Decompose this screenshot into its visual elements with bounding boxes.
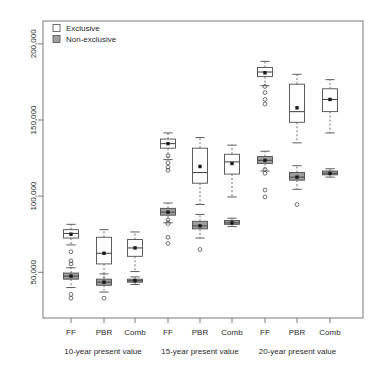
- mean-marker: [328, 172, 331, 175]
- x-tick-label: Comb: [221, 328, 243, 337]
- boxplot[interactable]: [64, 224, 79, 265]
- x-tick-label: PBR: [192, 328, 209, 337]
- mean-marker: [69, 233, 72, 236]
- boxplot-chart: 50,000100,000150,000200,000 FFPBRCombFFP…: [0, 0, 379, 376]
- outlier-point: [263, 98, 267, 102]
- chart-canvas: 50,000100,000150,000200,000 FFPBRCombFFP…: [0, 0, 379, 376]
- mean-marker: [328, 98, 331, 101]
- y-tick-label: 200,000: [29, 29, 38, 58]
- panel-label: 10-year present value: [64, 347, 142, 356]
- legend-swatch: [53, 36, 60, 43]
- box-iqr: [290, 84, 305, 122]
- x-tick-label: Comb: [124, 328, 146, 337]
- boxplot[interactable]: [161, 133, 176, 172]
- boxplot[interactable]: [161, 203, 176, 245]
- panel-label: 20-year present value: [259, 347, 337, 356]
- legend-label: Non-exclusive: [66, 35, 117, 44]
- boxplot-series-layer: [64, 61, 338, 300]
- outlier-point: [69, 296, 73, 300]
- boxplot[interactable]: [290, 166, 305, 207]
- x-tick-label: FF: [163, 328, 173, 337]
- outlier-point: [263, 188, 267, 192]
- boxplot[interactable]: [193, 214, 208, 251]
- y-tick-label: 150,000: [29, 105, 38, 134]
- mean-marker: [133, 279, 136, 282]
- mean-marker: [102, 252, 105, 255]
- panel-label: 15-year present value: [161, 347, 239, 356]
- boxplot[interactable]: [97, 274, 112, 300]
- outlier-point: [263, 195, 267, 199]
- boxplot[interactable]: [193, 138, 208, 205]
- boxplot[interactable]: [128, 277, 143, 285]
- mean-marker: [230, 221, 233, 224]
- mean-marker: [198, 224, 201, 227]
- outlier-point: [69, 250, 73, 254]
- outlier-point: [166, 235, 170, 239]
- outlier-point: [295, 203, 299, 207]
- boxplot[interactable]: [258, 151, 273, 199]
- mean-marker: [133, 246, 136, 249]
- outlier-point: [263, 91, 267, 95]
- outlier-point: [102, 296, 106, 300]
- legend-swatch: [53, 25, 60, 32]
- boxplot[interactable]: [64, 268, 79, 300]
- x-tick-label: FF: [260, 328, 270, 337]
- y-axis: 50,000100,000150,000200,000: [29, 29, 43, 285]
- outlier-point: [263, 171, 267, 175]
- mean-marker: [230, 162, 233, 165]
- mean-marker: [102, 281, 105, 284]
- mean-marker: [69, 274, 72, 277]
- outlier-point: [166, 161, 170, 165]
- mean-marker: [166, 210, 169, 213]
- boxplot[interactable]: [225, 145, 240, 197]
- boxplot[interactable]: [290, 74, 305, 143]
- box-iqr: [97, 237, 112, 264]
- y-tick-label: 50,000: [29, 260, 38, 285]
- boxplot[interactable]: [323, 169, 338, 177]
- boxplot[interactable]: [225, 218, 240, 226]
- x-tick-label: FF: [66, 328, 76, 337]
- boxplot[interactable]: [128, 232, 143, 272]
- mean-marker: [295, 175, 298, 178]
- x-tick-label: Comb: [319, 328, 341, 337]
- boxplot[interactable]: [258, 61, 273, 106]
- mean-marker: [198, 165, 201, 168]
- mean-marker: [166, 142, 169, 145]
- mean-marker: [295, 106, 298, 109]
- x-tick-label: PBR: [289, 328, 306, 337]
- boxplot[interactable]: [323, 80, 338, 133]
- x-tick-label: PBR: [96, 328, 113, 337]
- mean-marker: [263, 159, 266, 162]
- outlier-point: [69, 292, 73, 296]
- outlier-point: [166, 222, 170, 226]
- outlier-point: [263, 102, 267, 106]
- outlier-point: [198, 248, 202, 252]
- chart-legend: ExclusiveNon-exclusive: [53, 24, 117, 44]
- outlier-point: [166, 241, 170, 245]
- legend-label: Exclusive: [66, 24, 100, 33]
- mean-marker: [263, 71, 266, 74]
- x-axis: FFPBRCombFFPBRCombFFPBRComb10-year prese…: [64, 318, 341, 356]
- y-tick-label: 100,000: [29, 181, 38, 210]
